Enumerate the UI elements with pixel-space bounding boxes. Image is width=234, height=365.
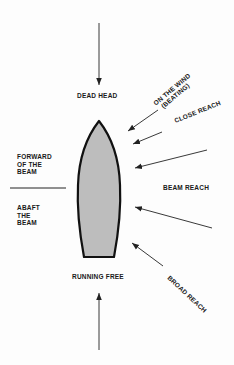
- abaft-line3: BEAM: [17, 219, 40, 227]
- abaft-the-beam-label: ABAFT THE BEAM: [17, 204, 40, 227]
- close-reach-arrow: [133, 132, 162, 144]
- forward-of-beam-label: FORWARD OF THE BEAM: [17, 153, 52, 176]
- running-free-label: RUNNING FREE: [72, 273, 124, 281]
- forward-line2: OF THE: [17, 161, 52, 169]
- forward-line3: BEAM: [17, 168, 52, 176]
- beam-reach-fore-arrow: [135, 150, 207, 168]
- forward-line1: FORWARD: [17, 153, 52, 161]
- broad-reach-arrow: [132, 243, 163, 266]
- abaft-line1: ABAFT: [17, 204, 40, 212]
- boat-hull: [78, 121, 121, 257]
- beam-reach-label: BEAM REACH: [163, 184, 209, 192]
- beam-reach-aft-arrow: [135, 207, 212, 228]
- abaft-line2: THE: [17, 212, 40, 220]
- dead-head-label: DEAD HEAD: [77, 92, 117, 100]
- on-the-wind-arrow: [128, 110, 158, 131]
